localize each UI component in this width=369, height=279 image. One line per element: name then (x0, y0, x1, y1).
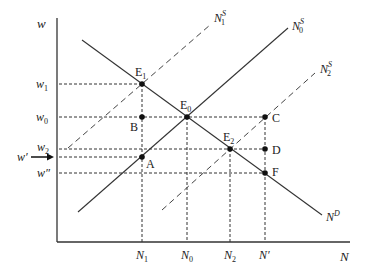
point-C (262, 114, 268, 120)
supply-curve-N1S (68, 25, 210, 148)
point-F (262, 170, 268, 176)
label-N1: N1 (135, 248, 148, 264)
label-E1: E1 (135, 65, 146, 81)
labor-market-diagram: w N E1 E0 E2 A B C D F w1 w0 w2 (0, 0, 369, 279)
label-N0S: NS0 (291, 17, 304, 35)
label-N1S: NS1 (213, 9, 226, 27)
x-axis-label: N (339, 249, 350, 264)
point-E0 (184, 114, 190, 120)
point-E1 (139, 81, 145, 87)
label-wprime: w′ (17, 150, 28, 164)
label-w2: w2 (37, 140, 49, 156)
point-E2 (227, 146, 233, 152)
label-ND: ND (325, 209, 340, 224)
label-C: C (272, 111, 280, 125)
label-N2: N2 (223, 248, 236, 264)
label-w1: w1 (36, 77, 48, 93)
y-axis-label: w (37, 16, 46, 31)
label-wdoubleprime: w″ (37, 166, 51, 180)
label-D: D (272, 143, 281, 157)
supply-curve-N2S (162, 73, 315, 210)
label-B: B (130, 120, 138, 134)
label-F: F (272, 165, 279, 179)
arrow-wprime-icon (31, 154, 54, 161)
label-E2: E2 (223, 130, 234, 146)
label-Nprime: N′ (258, 248, 270, 262)
label-N0: N0 (180, 248, 193, 264)
point-A (139, 154, 145, 160)
label-E0: E0 (180, 98, 191, 114)
point-B (139, 114, 145, 120)
label-A: A (146, 157, 155, 171)
label-w0: w0 (36, 110, 48, 126)
supply-curve-N0S (78, 28, 288, 212)
demand-curve-ND (82, 40, 322, 215)
point-D (262, 146, 268, 152)
label-N2S: NS2 (319, 60, 332, 78)
